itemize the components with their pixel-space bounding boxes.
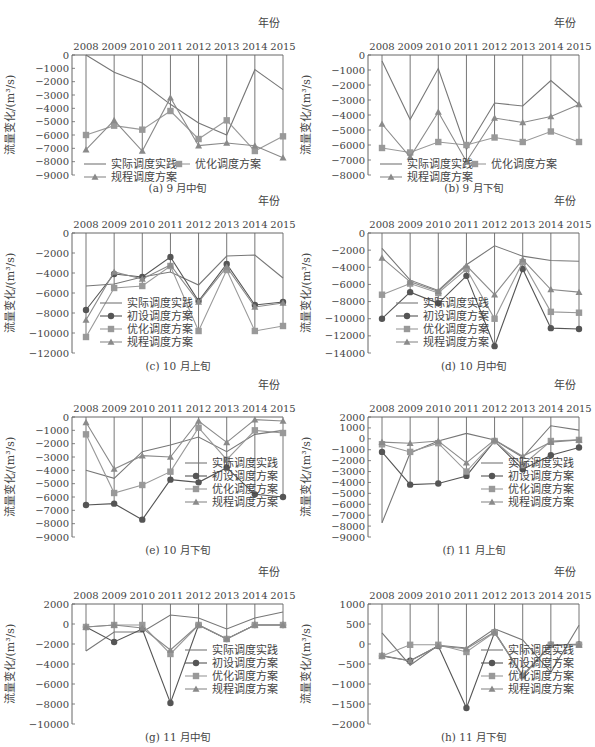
- y-tick-label: −6000: [331, 140, 365, 151]
- chart-panel-c: 年份200820092010201120122013201420150−2000…: [0, 178, 297, 362]
- y-tick-label: −12000: [325, 330, 365, 341]
- y-axis-title: 流量变化/(m³/s): [299, 75, 313, 155]
- y-tick-label: −3000: [331, 95, 365, 106]
- marker-square-icon: [463, 142, 469, 148]
- marker-square-icon: [139, 482, 145, 488]
- x-tick-label: 2009: [397, 403, 422, 414]
- x-tick-label: 2008: [369, 403, 394, 414]
- legend-label: 优化调度方案: [491, 157, 557, 171]
- marker-square-icon: [193, 673, 199, 679]
- marker-square-icon: [176, 161, 182, 167]
- legend-label: 初设调度方案: [508, 469, 574, 483]
- x-tick-label: 2013: [214, 403, 239, 414]
- x-tick-label: 2010: [426, 590, 451, 601]
- y-tick-label: 0: [63, 412, 69, 423]
- marker-square-icon: [139, 126, 145, 132]
- marker-circle-icon: [489, 473, 495, 479]
- y-tick-label: 0: [359, 433, 365, 444]
- x-tick-label: 2010: [130, 219, 155, 230]
- chart-caption: (g) 11 月中旬: [145, 731, 210, 743]
- x-axis-title: 年份: [554, 565, 576, 579]
- marker-square-icon: [379, 292, 385, 298]
- y-tick-label: −1000: [331, 65, 365, 76]
- y-tick-label: −10000: [29, 719, 69, 730]
- y-tick-label: −1500: [331, 699, 365, 710]
- legend-label: 规程调度方案: [423, 335, 489, 349]
- legend: 实际调度实践初设调度方案优化调度方案规程调度方案: [185, 643, 278, 696]
- marker-triangle-icon: [195, 418, 202, 424]
- x-axis-title: 年份: [554, 194, 576, 208]
- x-tick-label: 2014: [242, 403, 267, 414]
- legend-label: 实际调度实践: [111, 157, 177, 171]
- legend-label: 规程调度方案: [212, 682, 278, 696]
- x-tick-label: 2013: [510, 219, 535, 230]
- x-tick-label: 2010: [426, 403, 451, 414]
- y-tick-label: −2000: [35, 438, 69, 449]
- marker-square-icon: [108, 326, 114, 332]
- marker-square-icon: [252, 148, 258, 154]
- y-tick-label: −4000: [331, 262, 365, 273]
- marker-square-icon: [167, 468, 173, 474]
- marker-triangle-icon: [111, 269, 118, 275]
- chart-panel-f: 年份20082009201020112012201320142015200010…: [296, 362, 593, 546]
- x-tick-label: 2013: [510, 590, 535, 601]
- marker-square-icon: [280, 133, 286, 139]
- y-tick-label: −2000: [35, 639, 69, 650]
- series-optimized: [379, 128, 582, 155]
- marker-square-icon: [520, 139, 526, 145]
- y-tick-label: −6000: [35, 492, 69, 503]
- marker-circle-icon: [108, 313, 114, 319]
- x-tick-label: 2011: [158, 403, 183, 414]
- y-tick-label: −4000: [35, 103, 69, 114]
- marker-circle-icon: [167, 476, 173, 482]
- series-actual: [382, 61, 579, 150]
- marker-square-icon: [195, 424, 201, 430]
- marker-square-icon: [195, 328, 201, 334]
- x-tick-label: 2015: [566, 219, 591, 230]
- x-tick-label: 2014: [242, 219, 267, 230]
- y-tick-label: −6000: [331, 279, 365, 290]
- legend-label: 初设调度方案: [508, 656, 574, 670]
- y-tick-label: −4000: [331, 110, 365, 121]
- legend-label: 初设调度方案: [212, 469, 278, 483]
- marker-square-icon: [167, 108, 173, 114]
- marker-circle-icon: [83, 307, 89, 313]
- marker-circle-icon: [379, 449, 385, 455]
- y-tick-label: −2000: [331, 245, 365, 256]
- legend-label: 规程调度方案: [508, 495, 574, 509]
- y-tick-label: −4000: [35, 659, 69, 670]
- x-tick-label: 2014: [538, 590, 563, 601]
- x-tick-label: 2010: [130, 403, 155, 414]
- marker-triangle-icon: [111, 117, 118, 123]
- y-tick-label: −2000: [331, 719, 365, 730]
- x-tick-label: 2013: [214, 590, 239, 601]
- marker-circle-icon: [167, 700, 173, 706]
- x-tick-label: 2013: [510, 41, 535, 52]
- y-tick-label: −8000: [35, 308, 69, 319]
- x-tick-label: 2009: [101, 590, 126, 601]
- chart-panel-g: 年份2008200920102011201220132014201520000−…: [0, 549, 297, 733]
- x-tick-label: 2011: [158, 590, 183, 601]
- y-tick-label: −2000: [331, 80, 365, 91]
- y-tick-label: −6000: [35, 679, 69, 690]
- marker-triangle-icon: [111, 466, 118, 472]
- legend-label: 优化调度方案: [508, 669, 574, 683]
- marker-square-icon: [435, 139, 441, 145]
- chart-panel-a: 年份200820092010201120122013201420150−1000…: [0, 0, 297, 184]
- marker-circle-icon: [576, 326, 582, 332]
- marker-square-icon: [576, 310, 582, 316]
- y-axis-title: 流量变化/(m³/s): [3, 437, 17, 517]
- x-tick-label: 2011: [158, 41, 183, 52]
- legend-label: 规程调度方案: [212, 495, 278, 509]
- marker-circle-icon: [407, 481, 413, 487]
- y-tick-label: −1000: [331, 444, 365, 455]
- x-tick-label: 2010: [130, 590, 155, 601]
- x-axis-title: 年份: [258, 16, 280, 30]
- y-tick-label: 500: [346, 619, 365, 630]
- x-tick-label: 2015: [270, 403, 295, 414]
- marker-square-icon: [463, 468, 469, 474]
- x-tick-label: 2012: [186, 590, 211, 601]
- x-axis-title: 年份: [554, 378, 576, 392]
- marker-circle-icon: [139, 516, 145, 522]
- x-tick-label: 2012: [186, 219, 211, 230]
